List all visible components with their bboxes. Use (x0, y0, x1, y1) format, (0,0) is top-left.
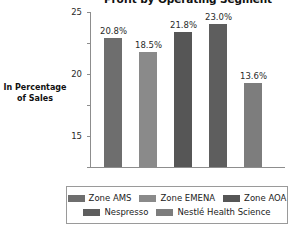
bar-group: 21.8% (166, 12, 201, 167)
legend-label: Zone AOA (244, 193, 286, 203)
bar-value-label: 13.6% (240, 71, 267, 81)
bar-group: 20.8% (96, 12, 131, 167)
legend-label: Zone AMS (89, 193, 132, 203)
legend-swatch-icon (139, 195, 156, 202)
bar[interactable] (104, 38, 122, 167)
plot-area: 0510152025 20.8%18.5%21.8%23.0%13.6% (90, 12, 285, 168)
legend-row: Zone AMSZone EMENAZone AOA (67, 191, 287, 205)
legend-item[interactable]: Zone AOA (223, 193, 286, 203)
y-axis-title-line-1: In Percentage (2, 82, 68, 93)
bar-group: 13.6% (236, 12, 271, 167)
chart-title: Profit by Operating Segment (88, 0, 288, 5)
legend-label: Nestlé Health Science (177, 207, 270, 217)
y-tick-label: 25 (71, 7, 82, 17)
y-axis-title: In Percentage of Sales (2, 82, 68, 104)
legend-swatch-icon (156, 209, 173, 216)
y-axis-title-line-2: of Sales (2, 93, 68, 104)
legend-label: Zone EMENA (160, 193, 215, 203)
legend-item[interactable]: Nespresso (83, 207, 148, 217)
legend-row: NespressoNestlé Health Science (67, 205, 287, 219)
legend-swatch-icon (83, 209, 100, 216)
legend-label: Nespresso (104, 207, 148, 217)
legend-item[interactable]: Nestlé Health Science (156, 207, 270, 217)
legend-swatch-icon (223, 195, 240, 202)
y-tick-label: 15 (71, 131, 82, 141)
bars-layer: 20.8%18.5%21.8%23.0%13.6% (90, 12, 285, 168)
bar-group: 18.5% (131, 12, 166, 167)
bar[interactable] (244, 83, 262, 167)
legend-item[interactable]: Zone EMENA (139, 193, 215, 203)
bar-value-label: 21.8% (170, 20, 197, 30)
bar-chart: Profit by Operating Segment In Percentag… (0, 0, 295, 231)
bar-value-label: 23.0% (205, 12, 232, 22)
bar-group: 23.0% (201, 12, 236, 167)
bar[interactable] (174, 32, 192, 167)
bar-value-label: 20.8% (100, 26, 127, 36)
legend-item[interactable]: Zone AMS (68, 193, 132, 203)
chart-legend: Zone AMSZone EMENAZone AOANespressoNestl… (66, 186, 288, 224)
y-tick-label: 20 (71, 69, 82, 79)
bar[interactable] (209, 24, 227, 167)
bar[interactable] (139, 52, 157, 167)
legend-swatch-icon (68, 195, 85, 202)
bar-value-label: 18.5% (135, 40, 162, 50)
